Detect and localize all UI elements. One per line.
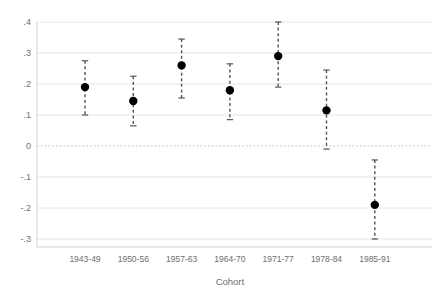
y-axis-tick-label: -.1 xyxy=(20,172,31,182)
x-axis-tick-label: 1964-70 xyxy=(214,254,245,264)
y-axis-tick-label: 0 xyxy=(26,141,31,151)
y-axis-tick-label: .1 xyxy=(23,110,31,120)
data-point-marker xyxy=(371,201,379,209)
cohort-estimate-chart: .4.3.2.10-.1-.2-.3 1943-491950-561957-63… xyxy=(0,0,438,294)
x-axis-title: Cohort xyxy=(216,276,245,287)
x-axis-tick-label: 1957-63 xyxy=(166,254,197,264)
chart-canvas: .4.3.2.10-.1-.2-.3 1943-491950-561957-63… xyxy=(0,0,438,294)
y-axis-tick-label: .3 xyxy=(23,48,31,58)
x-axis-tick-label: 1978-84 xyxy=(311,254,342,264)
x-axis-tick-label: 1985-91 xyxy=(359,254,390,264)
data-point-marker xyxy=(226,86,234,94)
x-axis-tick-label: 1950-56 xyxy=(118,254,149,264)
y-axis-tick-label: -.3 xyxy=(20,234,31,244)
chart-background xyxy=(0,0,438,294)
y-axis-tick-label: -.2 xyxy=(20,203,31,213)
x-axis-tick-label: 1971-77 xyxy=(263,254,294,264)
data-point-marker xyxy=(177,61,185,69)
x-axis-tick-label: 1943-49 xyxy=(69,254,100,264)
data-point-marker xyxy=(81,83,89,91)
data-point-marker xyxy=(274,52,282,60)
y-axis-tick-label: .4 xyxy=(23,17,31,27)
y-axis-tick-label: .2 xyxy=(23,79,31,89)
data-point-marker xyxy=(322,106,330,114)
data-point-marker xyxy=(129,97,137,105)
